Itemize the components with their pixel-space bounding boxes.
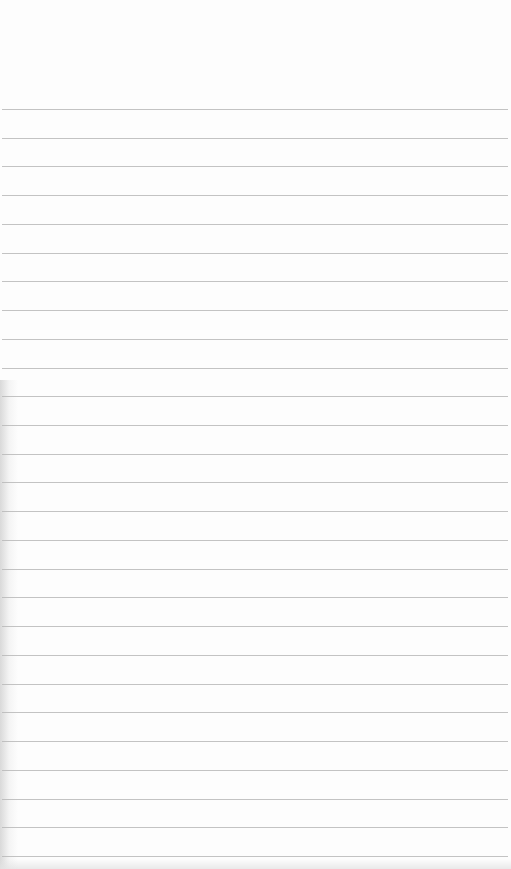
ruled-line (2, 540, 508, 541)
ruled-line (2, 684, 508, 685)
ruled-line (2, 425, 508, 426)
ruled-line (2, 597, 508, 598)
ruled-line (2, 770, 508, 771)
ruled-line (2, 310, 508, 311)
ruled-line (2, 281, 508, 282)
ruled-line (2, 741, 508, 742)
ruled-line (2, 339, 508, 340)
ruled-line (2, 396, 508, 397)
ruled-line (2, 482, 508, 483)
ruled-line (2, 712, 508, 713)
ruled-line (2, 166, 508, 167)
lined-paper-page (0, 0, 511, 869)
ruled-line (2, 253, 508, 254)
ruled-line (2, 856, 508, 857)
ruled-line (2, 655, 508, 656)
ruled-line (2, 569, 508, 570)
ruled-line (2, 224, 508, 225)
ruled-line (2, 626, 508, 627)
ruled-line (2, 368, 508, 369)
ruled-line (2, 799, 508, 800)
ruled-line (2, 827, 508, 828)
ruled-line (2, 195, 508, 196)
ruled-line (2, 138, 508, 139)
bottom-shadow-band (0, 859, 511, 869)
ruled-line (2, 511, 508, 512)
ruled-line (2, 109, 508, 110)
ruled-line (2, 454, 508, 455)
